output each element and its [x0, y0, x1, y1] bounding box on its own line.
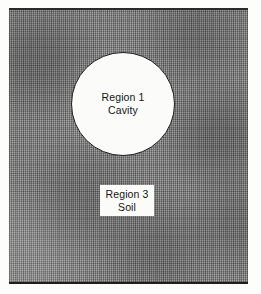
cavity-label-line-1: Region 1	[102, 91, 145, 104]
cavity-label-line-2: Cavity	[108, 104, 138, 117]
figure-canvas: Region 1 Cavity Region 3 Soil	[0, 0, 261, 294]
cavity-region-circle: Region 1 Cavity	[71, 52, 175, 156]
soil-label-line-1: Region 3	[106, 188, 149, 201]
soil-label-box: Region 3 Soil	[100, 185, 154, 216]
soil-label-line-2: Soil	[118, 201, 136, 214]
